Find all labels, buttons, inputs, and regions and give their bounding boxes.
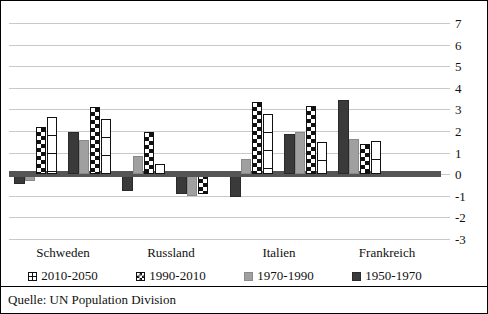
bar-group <box>117 23 171 239</box>
bar[interactable] <box>284 134 294 174</box>
chart-figure: 76543210-1-2-3 SchwedenRusslandItalienFr… <box>0 0 488 314</box>
bar-group <box>9 23 63 239</box>
y-tick-label: 5 <box>455 60 462 73</box>
bar-group <box>333 23 387 239</box>
bar[interactable] <box>295 132 305 174</box>
bar[interactable] <box>371 141 381 174</box>
bar-group <box>171 23 225 239</box>
bar[interactable] <box>241 159 251 174</box>
plot-area <box>9 23 441 239</box>
bar[interactable] <box>338 100 348 175</box>
legend-item[interactable]: 1970-1990 <box>225 268 333 284</box>
legend-label: 1990-2010 <box>149 268 205 284</box>
y-tick-mark <box>441 45 450 46</box>
legend-swatch-icon <box>28 272 37 281</box>
bar[interactable] <box>90 107 100 174</box>
y-tick-label: 4 <box>455 81 462 94</box>
bar[interactable] <box>79 140 89 175</box>
legend-item[interactable]: 1990-2010 <box>117 268 225 284</box>
legend-item[interactable]: 1950-1970 <box>333 268 441 284</box>
y-tick-mark <box>441 23 450 24</box>
legend-item[interactable]: 2010-2050 <box>9 268 117 284</box>
chart-legend: 2010-20501990-20101970-19901950-1970 <box>9 267 441 285</box>
bar[interactable] <box>263 114 273 174</box>
bar[interactable] <box>144 132 154 174</box>
y-axis: 76543210-1-2-3 <box>441 23 487 239</box>
gridline <box>9 239 441 240</box>
bar[interactable] <box>155 164 165 174</box>
y-tick-label: 1 <box>455 146 462 159</box>
category-label: Schweden <box>36 245 89 261</box>
category-axis-labels: SchwedenRusslandItalienFrankreich <box>9 245 441 265</box>
bar[interactable] <box>360 144 370 174</box>
bar[interactable] <box>47 117 57 174</box>
y-tick-label: 6 <box>455 38 462 51</box>
source-bar: Quelle: UN Population Division <box>1 286 487 313</box>
bar[interactable] <box>133 156 143 174</box>
y-tick-mark <box>441 217 450 218</box>
y-tick-label: 2 <box>455 125 462 138</box>
category-label: Italien <box>262 245 295 261</box>
y-tick-mark <box>441 239 450 240</box>
y-tick-label: 7 <box>455 17 462 30</box>
category-label: Russland <box>147 245 195 261</box>
y-tick-label: -2 <box>455 211 466 224</box>
y-tick-label: 0 <box>455 168 462 181</box>
bar[interactable] <box>306 106 316 174</box>
legend-swatch-icon <box>136 272 145 281</box>
y-tick-mark <box>441 174 450 175</box>
category-label: Frankreich <box>359 245 415 261</box>
y-tick-mark <box>441 196 450 197</box>
y-tick-label: -1 <box>455 189 466 202</box>
source-text: Quelle: UN Population Division <box>1 292 176 308</box>
bar[interactable] <box>230 174 240 197</box>
y-tick-mark <box>441 88 450 89</box>
bar[interactable] <box>187 174 197 196</box>
legend-label: 1970-1990 <box>257 268 313 284</box>
y-tick-label: -3 <box>455 233 466 246</box>
legend-swatch-icon <box>352 272 361 281</box>
y-tick-mark <box>441 131 450 132</box>
bar[interactable] <box>349 139 359 175</box>
y-tick-mark <box>441 109 450 110</box>
bar[interactable] <box>68 132 78 174</box>
y-tick-label: 3 <box>455 103 462 116</box>
bar-group <box>279 23 333 239</box>
bar-group <box>63 23 117 239</box>
bar[interactable] <box>317 142 327 174</box>
legend-label: 1950-1970 <box>365 268 421 284</box>
bar-group <box>225 23 279 239</box>
legend-label: 2010-2050 <box>41 268 97 284</box>
y-tick-mark <box>441 153 450 154</box>
bar-group <box>387 23 441 239</box>
y-tick-mark <box>441 66 450 67</box>
bar[interactable] <box>252 102 262 174</box>
bar[interactable] <box>36 127 46 175</box>
legend-swatch-icon <box>244 272 253 281</box>
bar[interactable] <box>101 119 111 174</box>
